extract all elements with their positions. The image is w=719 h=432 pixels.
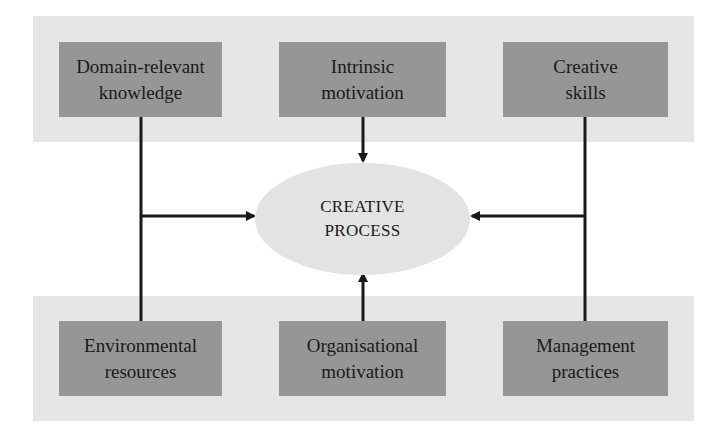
center-label-line2: PROCESS <box>325 219 401 243</box>
creative-skills-box: Creative skills <box>503 42 668 117</box>
creative-process-ellipse: CREATIVE PROCESS <box>255 163 470 275</box>
box-label-line2: knowledge <box>99 80 182 106</box>
box-label-line2: resources <box>105 359 177 385</box>
box-label-line1: Creative <box>553 54 617 80</box>
center-label-line1: CREATIVE <box>320 195 405 219</box>
box-label-line1: Organisational <box>307 333 419 359</box>
box-label-line2: motivation <box>321 80 403 106</box>
management-practices-box: Management practices <box>503 321 668 396</box>
box-label-line1: Domain-relevant <box>76 54 205 80</box>
intrinsic-motivation-box: Intrinsic motivation <box>279 42 446 117</box>
box-label-line2: motivation <box>321 359 403 385</box>
box-label-line1: Environmental <box>84 333 197 359</box>
organisational-motivation-box: Organisational motivation <box>279 321 446 396</box>
domain-relevant-knowledge-box: Domain-relevant knowledge <box>59 42 222 117</box>
box-label-line2: skills <box>565 80 605 106</box>
box-label-line2: practices <box>552 359 620 385</box>
box-label-line1: Management <box>536 333 635 359</box>
box-label-line1: Intrinsic <box>331 54 394 80</box>
environmental-resources-box: Environmental resources <box>59 321 222 396</box>
